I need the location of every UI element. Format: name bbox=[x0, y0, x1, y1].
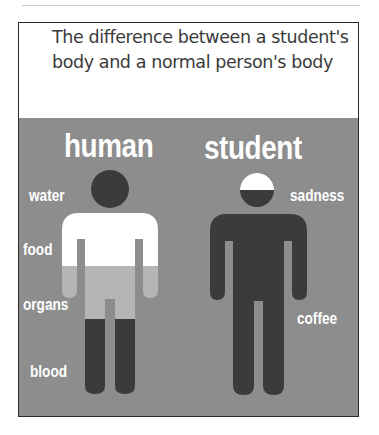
post-card: The difference between a student's body … bbox=[18, 22, 359, 417]
label-organs: organs bbox=[23, 296, 68, 313]
label-water: water bbox=[29, 187, 65, 204]
post-caption: The difference between a student's body … bbox=[52, 25, 352, 75]
label-coffee: coffee bbox=[297, 310, 337, 327]
label-blood: blood bbox=[30, 363, 67, 380]
meme-image: human student bbox=[19, 118, 358, 417]
label-sadness: sadness bbox=[290, 187, 344, 204]
label-food: food bbox=[23, 241, 52, 258]
human-figure-icon bbox=[19, 118, 358, 417]
divider bbox=[22, 5, 360, 6]
